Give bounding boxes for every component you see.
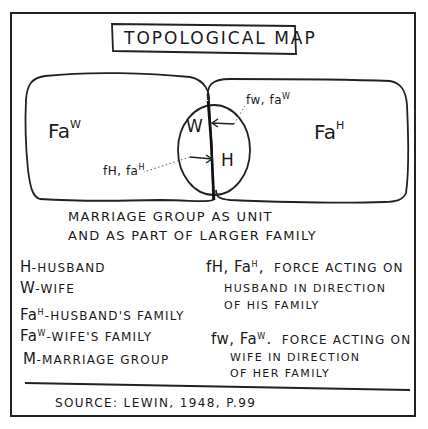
source-citation: SOURCE: LEWIN, 1948, P.99 [55, 396, 256, 410]
divider-line [208, 101, 214, 200]
wife-family-label: FaW [48, 119, 81, 143]
legend-force-husband: fH, FaH, FORCE ACTING ON [206, 258, 404, 276]
husband-node: H [221, 150, 234, 170]
legend-item-wifes-family: FaW-WIFE'S FAMILY [20, 327, 152, 345]
legend-item-husbands-family: FaH-HUSBAND'S FAMILY [20, 306, 185, 324]
legend-item-wife: W-WIFE [20, 279, 75, 297]
legend-force-husband-line-3: OF HIS FAMILY [224, 299, 320, 312]
legend-item-marriage-group: M-MARRIAGE GROUP [23, 350, 169, 368]
legend-force-wife-line-2: WIFE IN DIRECTION [230, 351, 361, 364]
diagram-title: TOPOLOGICAL MAP [124, 28, 317, 48]
legend-force-wife-line-3: OF HER FAMILY [230, 367, 330, 380]
wife-force-label: fw, faW [246, 92, 290, 107]
source-divider-line [25, 383, 410, 390]
caption-line-2: AND AS PART OF LARGER FAMILY [68, 228, 317, 243]
legend-force-wife: fw, FaW. FORCE ACTING ON [211, 330, 411, 348]
legend-item-husband: H-HUSBAND [20, 258, 106, 276]
caption-line-1: MARRIAGE GROUP AS UNIT [68, 209, 273, 224]
wife-force-arrow [212, 123, 234, 124]
husband-force-label: fH, faH [103, 163, 145, 178]
legend-force-husband-line-2: HUSBAND IN DIRECTION [224, 282, 386, 295]
husband-family-label: FaH [314, 120, 344, 144]
wife-node: W [186, 116, 203, 136]
husband-force-leader [144, 157, 190, 172]
